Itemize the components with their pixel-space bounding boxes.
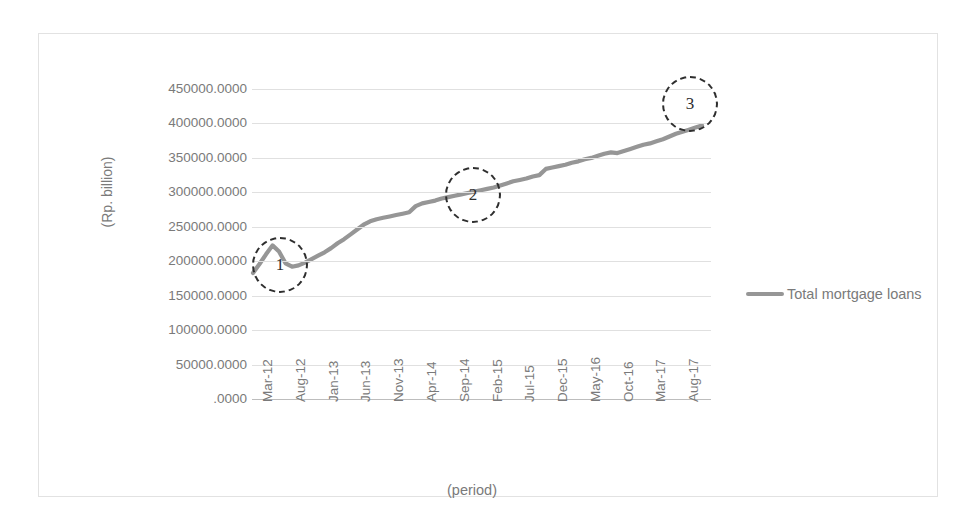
- x-tick-label: Jan-13: [327, 361, 341, 402]
- gridline: [252, 296, 711, 297]
- annotation-circle-2: 2: [445, 167, 501, 223]
- chart-legend: Total mortgage loans: [746, 286, 922, 302]
- x-tick-label: Aug-12: [294, 358, 308, 402]
- x-tick-label: Aug-17: [687, 358, 701, 402]
- x-tick-label: Mar-17: [654, 359, 668, 402]
- legend-line-swatch: [746, 292, 784, 296]
- y-tick-label: 450000.0000: [97, 82, 247, 96]
- x-tick-label: Sep-14: [458, 358, 472, 402]
- x-tick-label: Nov-13: [392, 358, 406, 402]
- annotation-circle-1: 1: [252, 237, 308, 293]
- x-tick-label: Jun-13: [359, 361, 373, 402]
- plot-area: [252, 89, 711, 399]
- x-tick-label: Dec-15: [556, 358, 570, 402]
- gridline: [252, 123, 711, 124]
- chart-frame: (Rp. billion) 450000.0000400000.00003500…: [38, 33, 938, 497]
- x-tick-label: Mar-12: [261, 359, 275, 402]
- y-tick-label: 350000.0000: [97, 151, 247, 165]
- gridline: [252, 158, 711, 159]
- x-tick-label: Jul-15: [523, 365, 537, 402]
- gridline: [252, 227, 711, 228]
- x-tick-label: Oct-16: [622, 361, 636, 402]
- y-tick-label: 200000.0000: [97, 254, 247, 268]
- y-tick-label: 400000.0000: [97, 116, 247, 130]
- gridline: [252, 330, 711, 331]
- chart-screenshot: (Rp. billion) 450000.0000400000.00003500…: [0, 0, 973, 523]
- x-tick-label: Apr-14: [425, 361, 439, 402]
- x-tick-label: Feb-15: [491, 359, 505, 402]
- legend-label-total-mortgage-loans: Total mortgage loans: [787, 286, 922, 302]
- gridline: [252, 365, 711, 366]
- x-axis-tick-labels: Mar-12Aug-12Jan-13Jun-13Nov-13Apr-14Sep-…: [252, 402, 711, 472]
- y-tick-label: .0000: [97, 392, 247, 406]
- series-total-mortgage-loans: [252, 89, 711, 399]
- y-tick-label: 100000.0000: [97, 323, 247, 337]
- x-axis-title: (period): [322, 482, 622, 498]
- gridline: [252, 261, 711, 262]
- y-tick-label: 50000.0000: [97, 358, 247, 372]
- y-tick-label: 150000.0000: [97, 289, 247, 303]
- y-axis-tick-labels: 450000.0000400000.0000350000.0000300000.…: [87, 89, 247, 399]
- y-tick-label: 250000.0000: [97, 220, 247, 234]
- y-tick-label: 300000.0000: [97, 185, 247, 199]
- x-tick-label: May-16: [589, 357, 603, 402]
- gridline: [252, 89, 711, 90]
- x-axis-line: [252, 399, 711, 400]
- annotation-circle-3: 3: [662, 76, 718, 132]
